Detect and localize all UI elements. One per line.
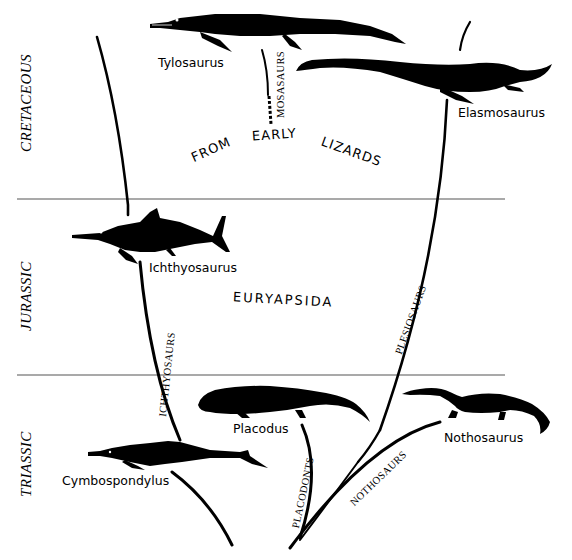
- animal-label-ichthyosaurus: Ichthyosaurus: [149, 260, 237, 275]
- cymbospondylus-silhouette: [88, 441, 268, 470]
- period-label-triassic: TRIASSIC: [18, 431, 35, 497]
- ichthyosaurs-branch-line: [97, 37, 128, 215]
- arc-word-early: EARLY: [252, 125, 298, 143]
- animal-label-cymbospondylus: Cymbospondylus: [62, 473, 169, 488]
- plesiosaurs-branch-lower: [358, 430, 380, 462]
- lineage-label-mosasaurs: MOSASAURS: [275, 51, 286, 118]
- ichthyosaurus-silhouette: [72, 208, 230, 264]
- plesiosaurs-branch-line: [380, 100, 447, 430]
- mosasaurs-branch-line: [262, 50, 268, 95]
- animal-label-elasmosaurus: Elasmosaurus: [458, 105, 545, 120]
- tylosaurus-silhouette: [150, 14, 406, 52]
- period-label-cretaceous: CRETACEOUS: [18, 54, 35, 152]
- animal-label-tylosaurus: Tylosaurus: [158, 55, 224, 70]
- cymbospondylus-branch-line: [172, 472, 232, 545]
- animal-label-nothosaurus: Nothosaurus: [444, 430, 523, 445]
- placodus-silhouette: [198, 386, 370, 422]
- animal-label-placodus: Placodus: [233, 421, 289, 436]
- period-label-jurassic: JURASSIC: [18, 261, 35, 331]
- euryapsida-evolution-diagram: CRETACEOUS JURASSIC TRIASSIC Tylosaurus …: [0, 0, 572, 560]
- elasmosaurus-silhouette: [296, 58, 552, 104]
- mosasaurs-dashed-ancestry: [269, 96, 271, 124]
- plesiosaurs-branch-top: [460, 22, 470, 50]
